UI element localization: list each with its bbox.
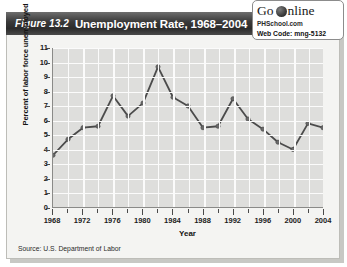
- gridline-vertical: [158, 48, 159, 207]
- y-tick-mark: [46, 135, 50, 136]
- figure-screenshot: Figure 13.2 Unemployment Rate, 1968–2004…: [0, 0, 347, 267]
- gridline-vertical: [309, 48, 310, 207]
- x-tick-label: 1992: [218, 216, 248, 225]
- x-tick-mark-major: [172, 209, 173, 215]
- y-tick-mark: [46, 92, 50, 93]
- data-point: [52, 153, 55, 157]
- page-title: Unemployment Rate, 1968–2004: [75, 18, 247, 30]
- x-axis-tick-labels: 1968197219761980198419881992199620002004: [52, 216, 323, 228]
- go-online-badge[interactable]: Go nline PHSchool.com Web Code: mng-5132: [252, 0, 344, 40]
- x-tick-mark-minor: [218, 209, 219, 213]
- y-tick-mark: [46, 63, 50, 64]
- x-tick-label: 2004: [308, 216, 338, 225]
- x-tick-mark-major: [52, 209, 53, 215]
- x-tick-mark-major: [293, 209, 294, 215]
- x-tick-mark-major: [82, 209, 83, 215]
- gridline-vertical: [98, 48, 99, 207]
- x-tick-mark-major: [142, 209, 143, 215]
- x-tick-mark-minor: [97, 209, 98, 213]
- globe-icon: [276, 6, 287, 17]
- y-tick-mark: [46, 77, 50, 78]
- gridline-vertical: [68, 48, 69, 207]
- chart-plot-area: [52, 48, 323, 208]
- y-tick-mark: [46, 150, 50, 151]
- go-label: Go: [257, 4, 274, 18]
- x-tick-label: 2000: [278, 216, 308, 225]
- x-tick-mark-minor: [188, 209, 189, 213]
- x-tick-mark-major: [233, 209, 234, 215]
- gridline-vertical: [264, 48, 266, 207]
- x-axis-title: Year: [52, 229, 323, 238]
- y-tick-mark: [46, 121, 50, 122]
- gridline-vertical: [83, 48, 85, 207]
- source-note: Source: U.S. Department of Labor: [18, 245, 121, 252]
- gridline-vertical: [294, 48, 296, 207]
- x-tick-mark-major: [112, 209, 113, 215]
- gridline-vertical: [234, 48, 236, 207]
- gridline-vertical: [204, 48, 206, 207]
- y-tick-mark: [46, 48, 50, 49]
- data-point: [321, 126, 323, 130]
- x-tick-label: 1976: [97, 216, 127, 225]
- x-tick-label: 1968: [37, 216, 67, 225]
- x-tick-mark-major: [203, 209, 204, 215]
- figure-title-banner: Figure 13.2 Unemployment Rate, 1968–2004: [6, 12, 252, 35]
- x-tick-mark-minor: [67, 209, 68, 213]
- gridline-vertical: [189, 48, 190, 207]
- x-tick-mark-minor: [248, 209, 249, 213]
- gridline-vertical: [143, 48, 145, 207]
- x-tick-label: 1984: [157, 216, 187, 225]
- plot-background: [52, 48, 323, 208]
- gridline-vertical: [279, 48, 280, 207]
- online-label: nline: [288, 4, 315, 18]
- x-tick-mark-major: [323, 209, 324, 215]
- x-tick-label: 1980: [127, 216, 157, 225]
- y-tick-mark: [46, 106, 50, 107]
- gridline-vertical: [219, 48, 220, 207]
- go-online-heading: Go nline: [257, 2, 343, 19]
- y-tick-mark: [46, 179, 50, 180]
- x-tick-mark-minor: [308, 209, 309, 213]
- web-code-text: Web Code: mng-5132: [257, 29, 343, 38]
- y-axis-title: Percent of labor force unemployed: [21, 0, 30, 134]
- x-tick-mark-minor: [127, 209, 128, 213]
- gridline-vertical: [128, 48, 129, 207]
- x-tick-label: 1996: [248, 216, 278, 225]
- y-tick-mark: [46, 193, 50, 194]
- x-tick-mark-minor: [157, 209, 158, 213]
- y-tick-mark: [46, 208, 50, 209]
- gridline-vertical: [173, 48, 175, 207]
- gridline-vertical: [113, 48, 115, 207]
- y-axis-tick-labels: 01234567891011: [30, 48, 48, 208]
- x-tick-label: 1972: [67, 216, 97, 225]
- x-axis-ticks: [52, 209, 323, 216]
- y-tick-mark: [46, 164, 50, 165]
- x-tick-mark-major: [263, 209, 264, 215]
- x-tick-mark-minor: [278, 209, 279, 213]
- gridline-vertical: [249, 48, 250, 207]
- x-tick-label: 1988: [188, 216, 218, 225]
- phschool-link[interactable]: PHSchool.com: [257, 19, 343, 28]
